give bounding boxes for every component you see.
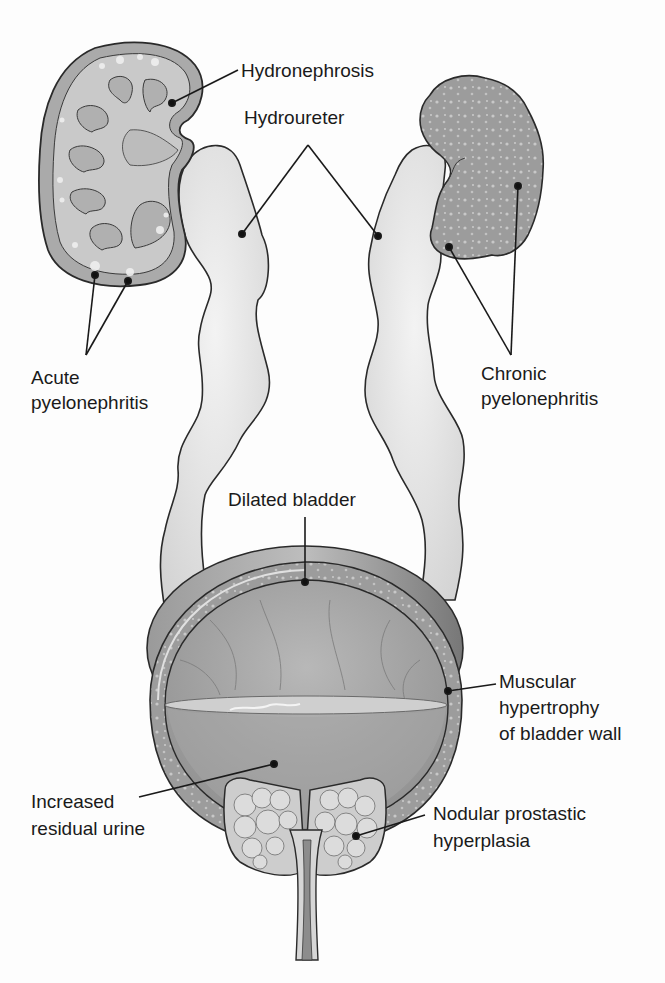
label-chronic-pyelonephritis: Chronic pyelonephritis <box>481 363 598 410</box>
label-line: hyperplasia <box>433 830 586 852</box>
label-increased-residual-urine: Increased residual urine <box>31 791 145 840</box>
urethra <box>290 830 322 960</box>
label-line: pyelonephritis <box>31 392 148 414</box>
label-acute-pyelonephritis: Acute pyelonephritis <box>31 367 148 414</box>
label-line: of bladder wall <box>499 723 622 745</box>
label-line: Dilated bladder <box>228 489 356 511</box>
label-hydronephrosis: Hydronephrosis <box>241 60 374 82</box>
label-line: Chronic <box>481 363 598 385</box>
bladder <box>147 546 463 855</box>
label-line: Increased <box>31 791 145 813</box>
label-line: Hydroureter <box>244 107 344 129</box>
label-line: hypertrophy <box>499 697 622 719</box>
label-line: pyelonephritis <box>481 388 598 410</box>
label-line: Hydronephrosis <box>241 60 374 82</box>
label-line: Muscular <box>499 671 622 693</box>
label-line: residual urine <box>31 818 145 840</box>
label-line: Acute <box>31 367 148 389</box>
label-muscular-hypertrophy: Muscular hypertrophy of bladder wall <box>499 671 622 745</box>
label-dilated-bladder: Dilated bladder <box>228 489 356 511</box>
label-line: Nodular prostastic <box>433 803 586 825</box>
label-hydroureter: Hydroureter <box>244 107 344 129</box>
label-nodular-prostatic-hyperplasia: Nodular prostastic hyperplasia <box>433 803 586 852</box>
left-kidney <box>39 42 203 286</box>
